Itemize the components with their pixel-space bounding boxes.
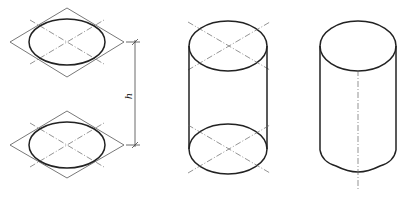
- top-ellipse: [29, 19, 105, 65]
- cylinder-bottom-ellipse: [189, 124, 267, 174]
- finished-top-ellipse: [320, 21, 396, 71]
- bottom-ellipse: [29, 122, 105, 168]
- height-dimension: h: [123, 39, 140, 148]
- step3-finished-cylinder: [320, 21, 396, 190]
- height-label: h: [123, 93, 134, 99]
- cylinder-top-ellipse: [189, 21, 267, 71]
- isometric-cylinder-diagram: h: [0, 0, 400, 197]
- step1-construction: h: [10, 8, 140, 178]
- step2-cylinder-construction: [188, 21, 270, 174]
